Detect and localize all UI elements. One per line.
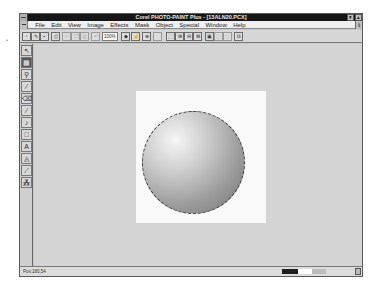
menu-special[interactable]: Special — [176, 21, 202, 29]
toolbox: ↖ ▦ ⚲ ⁄ ⌫ ∕ ♪ □ A ◬ ⟋ ⁂ — [20, 44, 33, 267]
image-canvas[interactable] — [136, 91, 266, 223]
mask-add-button[interactable]: ⊞ — [175, 32, 184, 41]
system-menu-button[interactable] — [20, 14, 28, 21]
blank-button[interactable] — [153, 32, 162, 41]
paste-button[interactable]: ▤ — [80, 32, 89, 41]
toolbar: ▫ ✎ ▪ ⎙ ✂ ❐ ▤ ↶ 100% ◆ ☝ ⊕ ⬚ ⊞ ⊟ ⊠ ▣ ▢ ▢… — [20, 30, 362, 43]
print-button[interactable]: ⎙ — [51, 32, 60, 41]
menu-mask[interactable]: Mask — [132, 21, 153, 29]
menu-file[interactable]: File — [32, 21, 48, 29]
object-subtract-button[interactable]: ▢ — [223, 32, 232, 41]
zoom-tool-button[interactable]: ⊕ — [142, 32, 151, 41]
cursor-position: Pos:180,54 — [23, 267, 46, 276]
pointer-tool[interactable]: ↖ — [21, 45, 32, 56]
object-add-button[interactable]: ▢ — [214, 32, 223, 41]
status-scroll-button[interactable] — [355, 268, 361, 275]
eyedropper-tool[interactable]: ⁄ — [21, 81, 32, 92]
workspace[interactable] — [34, 44, 362, 267]
mask-rect-button[interactable]: ⬚ — [166, 32, 175, 41]
undo-button[interactable]: ↶ — [91, 32, 100, 41]
minimize-button[interactable]: ▾ — [347, 14, 354, 21]
copy-button[interactable]: ❐ — [71, 32, 80, 41]
save-file-button[interactable]: ▪ — [40, 32, 49, 41]
eraser-tool[interactable]: ⌫ — [21, 93, 32, 104]
new-file-button[interactable]: ▫ — [22, 32, 31, 41]
window-title: Corel PHOTO-PAINT Plus - [13ALN20.PCX] — [135, 14, 246, 21]
sphere-mask-selection[interactable] — [142, 111, 245, 214]
page-mark: • — [6, 37, 8, 43]
mask-tool[interactable]: ▦ — [21, 57, 32, 68]
app-window: Corel PHOTO-PAINT Plus - [13ALN20.PCX] ▾… — [19, 13, 363, 277]
menu-help[interactable]: Help — [230, 21, 249, 29]
object-mode-button[interactable]: ▣ — [205, 32, 214, 41]
cut-button[interactable]: ✂ — [62, 32, 71, 41]
menu-window[interactable]: Window — [202, 21, 230, 29]
fill-tool[interactable]: ◬ — [21, 153, 32, 164]
text-tool[interactable]: A — [21, 141, 32, 152]
clone-tool[interactable]: ⁂ — [21, 177, 32, 188]
zoom-tool[interactable]: ⚲ — [21, 69, 32, 80]
menu-bar: File Edit View Image Effects Mask Object… — [20, 21, 362, 29]
maximize-button[interactable]: ▴ — [355, 14, 362, 21]
document-restore-button[interactable]: ⇕ — [355, 21, 362, 29]
open-file-button[interactable]: ✎ — [31, 32, 40, 41]
layers-button[interactable]: ⧉ — [234, 32, 243, 41]
rectangle-tool[interactable]: □ — [21, 129, 32, 140]
texture-swatch[interactable] — [312, 269, 326, 274]
zoom-level-field[interactable]: 100% — [102, 32, 118, 41]
line-tool[interactable]: ∕ — [21, 105, 32, 116]
title-bar: Corel PHOTO-PAINT Plus - [13ALN20.PCX] ▾… — [20, 14, 362, 21]
brush-tool[interactable]: ⟋ — [21, 165, 32, 176]
document-system-menu[interactable] — [20, 21, 28, 29]
status-bar: Pos:180,54 — [20, 266, 362, 276]
mask-xor-button[interactable]: ⊠ — [193, 32, 202, 41]
zoom-spin-button[interactable]: ◆ — [121, 32, 130, 41]
hand-tool-button[interactable]: ☝ — [131, 32, 140, 41]
paint-tool[interactable]: ♪ — [21, 117, 32, 128]
menu-object[interactable]: Object — [152, 21, 176, 29]
fill-color-swatch[interactable] — [298, 269, 312, 274]
menu-edit[interactable]: Edit — [48, 21, 65, 29]
menu-image[interactable]: Image — [84, 21, 107, 29]
outline-color-swatch[interactable] — [282, 269, 298, 274]
menu-view[interactable]: View — [65, 21, 84, 29]
menu-effects[interactable]: Effects — [107, 21, 132, 29]
mask-subtract-button[interactable]: ⊟ — [184, 32, 193, 41]
